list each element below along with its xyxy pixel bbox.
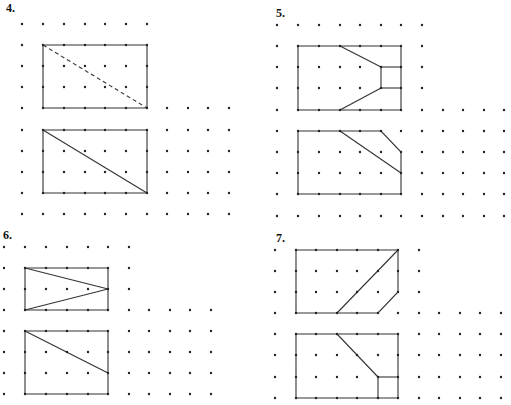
grid-dot (318, 172, 320, 174)
grid-dot (3, 267, 5, 269)
grid-dot (166, 192, 168, 194)
grid-dot (503, 172, 505, 174)
grid-dot (63, 213, 65, 215)
grid-dot (297, 151, 299, 153)
grid-dot (318, 24, 320, 26)
bottom-rectangle-segment (43, 130, 147, 193)
bottom-rectangle-outline (25, 331, 108, 394)
grid-dot (187, 171, 189, 173)
grid-dot (24, 246, 26, 248)
grid-dot (397, 249, 399, 251)
grid-dot (3, 309, 5, 311)
grid-dot (42, 129, 44, 131)
grid-dot (21, 86, 23, 88)
grid-dot (148, 372, 150, 374)
grid-dot (276, 109, 278, 111)
grid-dot (462, 130, 464, 132)
grid-dot (397, 376, 399, 378)
grid-dot (187, 192, 189, 194)
grid-dot (297, 130, 299, 132)
grid-dot (3, 288, 5, 290)
grid-dot (42, 44, 44, 46)
grid-dot (315, 249, 317, 251)
grid-dot (400, 193, 402, 195)
grid-dot (462, 193, 464, 195)
grid-dot (207, 150, 209, 152)
grid-dot (503, 215, 505, 217)
grid-dot (104, 129, 106, 131)
grid-dot (207, 213, 209, 215)
grid-dot (336, 333, 338, 335)
grid-dot (315, 291, 317, 293)
grid-dot (295, 333, 297, 335)
grid-dot (125, 150, 127, 152)
grid-dot (21, 65, 23, 67)
grid-dot (500, 312, 502, 314)
grid-dot (24, 351, 26, 353)
grid-dot (421, 24, 423, 26)
grid-dot (339, 109, 341, 111)
grid-dot (421, 66, 423, 68)
grid-dot (380, 151, 382, 153)
grid-dot (87, 267, 89, 269)
grid-dot (276, 45, 278, 47)
grid-dot (418, 354, 420, 356)
grid-dot (210, 372, 212, 374)
grid-dot (483, 193, 485, 195)
grid-dot (146, 44, 148, 46)
grid-dot (295, 397, 297, 399)
grid-dot (63, 150, 65, 152)
grid-dot (276, 66, 278, 68)
grid-dot (418, 376, 420, 378)
grid-dot (45, 393, 47, 395)
problem-7-number: 7. (276, 232, 285, 244)
grid-dot (276, 215, 278, 217)
grid-dot (421, 151, 423, 153)
grid-dot (356, 376, 358, 378)
top-rectangle-outline (43, 45, 147, 108)
grid-dot (128, 372, 130, 374)
grid-dot (146, 65, 148, 67)
grid-dot (63, 107, 65, 109)
grid-dot (339, 24, 341, 26)
grid-dot (146, 129, 148, 131)
grid-dot (42, 171, 44, 173)
grid-dot (297, 215, 299, 217)
grid-dot (380, 193, 382, 195)
grid-dot (479, 312, 481, 314)
grid-dot (377, 397, 379, 399)
grid-dot (356, 397, 358, 399)
grid-dot (359, 87, 361, 89)
grid-dot (418, 249, 420, 251)
grid-dot (87, 351, 89, 353)
grid-dot (380, 45, 382, 47)
grid-dot (315, 397, 317, 399)
grid-dot (128, 330, 130, 332)
grid-dot (66, 351, 68, 353)
grid-dot (125, 213, 127, 215)
grid-dot (462, 172, 464, 174)
grid-dot (128, 246, 130, 248)
grid-dot (128, 267, 130, 269)
grid-dot (146, 192, 148, 194)
grid-dot (438, 333, 440, 335)
grid-dot (148, 309, 150, 311)
grid-dot (146, 213, 148, 215)
grid-dot (297, 24, 299, 26)
grid-dot (45, 309, 47, 311)
grid-dot (377, 249, 379, 251)
grid-dot (459, 312, 461, 314)
grid-dot (21, 150, 23, 152)
grid-dot (107, 372, 109, 374)
grid-dot (104, 171, 106, 173)
problem-6-number: 6. (3, 229, 12, 241)
grid-dot (503, 130, 505, 132)
grid-dot (21, 107, 23, 109)
grid-dot (66, 330, 68, 332)
grid-dot (400, 109, 402, 111)
grid-dot (295, 270, 297, 272)
grid-dot (21, 192, 23, 194)
dot-grid-worksheet (0, 0, 511, 405)
grid-dot (318, 130, 320, 132)
grid-dot (274, 354, 276, 356)
